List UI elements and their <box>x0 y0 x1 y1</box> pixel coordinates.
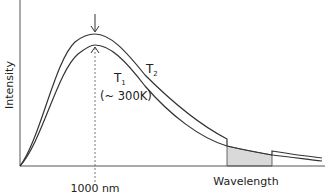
y-axis-label: Intensity <box>3 61 16 109</box>
shaded-band <box>227 146 272 166</box>
peak-wavelength-label: 1000 nm <box>70 182 119 195</box>
t1-temperature-note: (~ 300K) <box>100 89 152 103</box>
blackbody-diagram: Intensity T2 T1 (~ 300K) 1000 nm Wavelen… <box>0 0 325 196</box>
t2-label: T2 <box>145 62 158 78</box>
curve-t2 <box>20 34 322 166</box>
curve-t1 <box>20 45 322 166</box>
t1-label: T1 <box>113 71 126 87</box>
x-axis-label: Wavelength <box>213 175 278 188</box>
